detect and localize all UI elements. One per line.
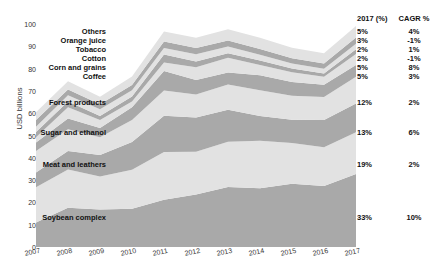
y-axis-tick: 50 xyxy=(10,132,36,139)
x-axis-tick: 2014 xyxy=(248,247,265,257)
y-axis: 0102030405060708090100 xyxy=(8,0,36,279)
x-axis-tick: 2008 xyxy=(56,247,73,257)
legend-cagr-value: 3% xyxy=(396,72,432,82)
y-axis-tick: 80 xyxy=(10,65,36,72)
x-axis-tick: 2017 xyxy=(344,247,361,257)
x-axis-tick: 2015 xyxy=(280,247,297,257)
legend-series-label: Sugar and ethanol xyxy=(41,128,106,138)
legend-cagr-value: 2% xyxy=(396,160,432,170)
legend-header-cagr: CAGR % xyxy=(396,14,432,24)
y-axis-tick: 60 xyxy=(10,110,36,117)
legend-series-label: Soybean complex xyxy=(42,213,106,223)
y-axis-tick: 100 xyxy=(10,21,36,28)
x-axis-tick: 2016 xyxy=(312,247,329,257)
x-axis-tick: 2010 xyxy=(120,247,137,257)
legend-share-value: 13% xyxy=(357,128,372,138)
x-axis-tick: 2007 xyxy=(24,247,41,257)
legend-header-share: 2017 (%) xyxy=(357,14,387,24)
y-axis-tick: 30 xyxy=(10,177,36,184)
y-axis-tick: 90 xyxy=(10,43,36,50)
y-axis-tick: 10 xyxy=(10,221,36,228)
legend-share-value: 12% xyxy=(357,98,372,108)
y-axis-tick: 20 xyxy=(10,199,36,206)
x-axis-tick: 2011 xyxy=(152,247,168,257)
legend-series-label: Meat and leathers xyxy=(43,160,106,170)
legend-cagr-value: 10% xyxy=(396,213,432,223)
legend-cagr-value: 6% xyxy=(396,128,432,138)
legend: 2017 (%) CAGR % Others5%4%Orange juice3%… xyxy=(196,14,443,234)
legend-share-value: 19% xyxy=(357,160,372,170)
legend-series-label: Forest products xyxy=(49,98,106,108)
x-axis-tick: 2012 xyxy=(184,247,201,257)
legend-cagr-value: 2% xyxy=(396,98,432,108)
stacked-area-chart: USD billions 0102030405060708090100 2017… xyxy=(0,0,443,279)
legend-share-value: 5% xyxy=(357,72,368,82)
x-axis-tick: 2009 xyxy=(88,247,105,257)
legend-share-value: 33% xyxy=(357,213,372,223)
legend-series-label: Coffee xyxy=(83,72,106,82)
y-axis-tick: 40 xyxy=(10,154,36,161)
x-axis-tick: 2013 xyxy=(216,247,233,257)
y-axis-tick: 70 xyxy=(10,87,36,94)
